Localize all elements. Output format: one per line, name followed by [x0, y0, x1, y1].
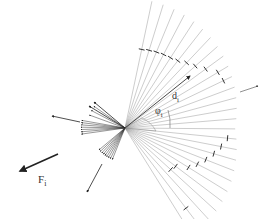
component-arrow-left [52, 116, 80, 122]
hit-mark [222, 78, 225, 83]
resultant-force-arrow [20, 154, 58, 171]
sensor-ray [125, 128, 231, 181]
sensor-ray [125, 1, 152, 128]
hit-mark [221, 144, 222, 150]
sensor-ray [125, 87, 235, 128]
heading-arrow [240, 86, 258, 92]
component-arrow-down [87, 164, 102, 192]
hit-mark [154, 51, 160, 53]
component-arrow-upper-left-2 [94, 102, 125, 128]
hit-mark [196, 162, 199, 167]
hit-mark [174, 164, 178, 169]
hit-mark [216, 70, 219, 75]
sensor-ray [125, 128, 201, 219]
component-vector [107, 128, 125, 157]
hit-mark [205, 157, 207, 163]
hit-mark [176, 59, 181, 63]
hit-mark [204, 67, 208, 72]
hit-mark [184, 206, 189, 210]
component-vector [105, 128, 125, 156]
hit-mark [187, 165, 190, 170]
label-d: di [172, 90, 179, 104]
sensor-ray [125, 38, 211, 129]
ray-hit-marks [139, 49, 228, 210]
angle-arc-phi [168, 110, 170, 128]
label-phi: φi [155, 105, 163, 119]
hit-mark [168, 56, 173, 59]
sensor-ray-fan [125, 1, 237, 219]
sensor-ray [125, 128, 236, 160]
hit-mark [139, 49, 145, 50]
component-vector [100, 128, 125, 151]
ray-casting-diagram: Fi di φi [0, 0, 274, 219]
sensor-ray [125, 29, 203, 128]
hit-mark [161, 53, 166, 56]
sensor-ray [125, 128, 235, 129]
sensor-ray [125, 128, 222, 202]
distance-vector-d [125, 76, 190, 128]
sensor-ray [125, 128, 227, 192]
label-F: Fi [38, 173, 47, 188]
component-vector [112, 128, 125, 160]
hit-mark [227, 135, 228, 141]
